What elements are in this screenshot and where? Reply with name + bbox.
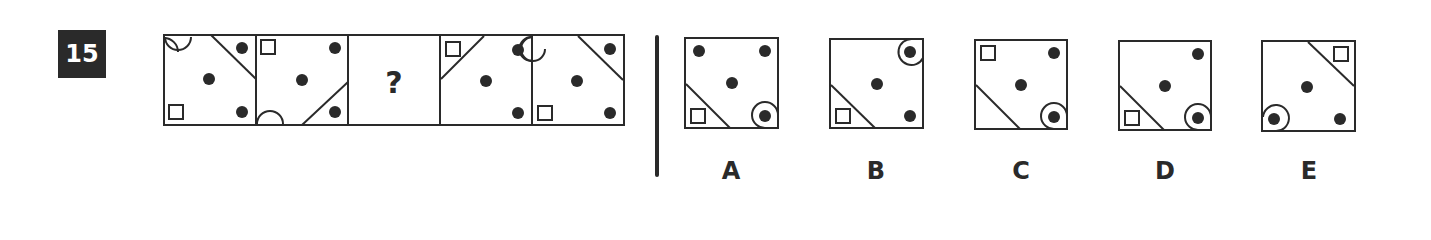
small-square-icon bbox=[169, 105, 183, 119]
small-square-icon bbox=[261, 40, 275, 54]
small-square-icon bbox=[446, 42, 460, 56]
missing-cell-question-mark: ? bbox=[385, 65, 402, 100]
option-a-label[interactable]: A bbox=[711, 157, 751, 185]
half-circle-icon bbox=[257, 111, 283, 124]
option-b-label[interactable]: B bbox=[856, 157, 896, 185]
small-square-icon bbox=[538, 106, 552, 120]
option-c-label[interactable]: C bbox=[1001, 157, 1041, 185]
option-d-label[interactable]: D bbox=[1145, 157, 1185, 185]
sequence-cell-4 bbox=[441, 36, 532, 79]
option-e-label[interactable]: E bbox=[1289, 157, 1329, 185]
